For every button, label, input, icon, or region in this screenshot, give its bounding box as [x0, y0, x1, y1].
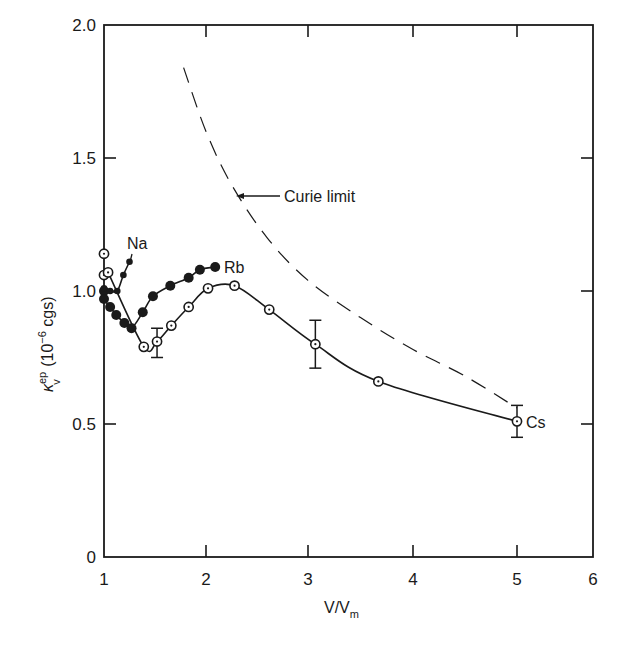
- filled-circle-marker: [165, 281, 175, 291]
- small-filled-marker: [114, 288, 121, 295]
- filled-circle-marker: [184, 273, 194, 283]
- small-filled-marker: [107, 288, 114, 295]
- chart: 12345600.51.01.52.0 κepv (10−6 cgs) V/Vm…: [0, 0, 625, 648]
- filled-circle-marker: [138, 307, 148, 317]
- marker-dot: [516, 420, 518, 422]
- y-tick-label: 0.5: [72, 415, 96, 434]
- y-axis-label: κepv (10−6 cgs): [36, 296, 62, 392]
- series-rb: [99, 262, 220, 333]
- y-tick-label: 1.5: [72, 149, 96, 168]
- filled-circle-marker: [99, 294, 109, 304]
- y-tick-label: 0: [87, 548, 96, 567]
- marker-dot: [314, 343, 316, 345]
- plot-frame: [104, 25, 593, 557]
- small-filled-marker: [101, 285, 108, 292]
- marker-dot: [188, 306, 190, 308]
- na-label: Na: [127, 235, 148, 252]
- x-tick-label: 4: [408, 570, 417, 589]
- filled-circle-marker: [105, 302, 115, 312]
- axis-ticks: 12345600.51.01.52.0: [72, 16, 597, 589]
- curie-limit-label: Curie limit: [284, 188, 356, 205]
- x-tick-label: 2: [201, 570, 210, 589]
- series-curie-limit: [184, 68, 517, 408]
- filled-circle-marker: [195, 265, 205, 275]
- plot-border: [104, 25, 593, 557]
- filled-circle-marker: [111, 310, 121, 320]
- marker-dot: [170, 324, 172, 326]
- series-cs: [99, 249, 523, 437]
- x-axis-label: V/Vm: [324, 599, 359, 620]
- x-tick-label: 3: [303, 570, 312, 589]
- cs-label: Cs: [526, 414, 546, 431]
- marker-dot: [103, 253, 105, 255]
- marker-dot: [233, 285, 235, 287]
- marker-dot: [268, 309, 270, 311]
- marker-dot: [207, 287, 209, 289]
- marker-dot: [377, 380, 379, 382]
- rb-label: Rb: [224, 259, 245, 276]
- x-tick-label: 5: [512, 570, 521, 589]
- y-tick-label: 1.0: [72, 282, 96, 301]
- x-tick-label: 1: [99, 570, 108, 589]
- small-filled-marker: [120, 272, 127, 279]
- y-tick-label: 2.0: [72, 16, 96, 35]
- curie-limit-curve: [184, 68, 517, 408]
- x-tick-label: 6: [588, 570, 597, 589]
- filled-circle-marker: [210, 262, 220, 272]
- marker-dot: [156, 340, 158, 342]
- marker-dot: [107, 271, 109, 273]
- marker-dot: [143, 346, 145, 348]
- filled-circle-marker: [127, 323, 137, 333]
- filled-circle-marker: [148, 291, 158, 301]
- series-layer: [99, 68, 523, 438]
